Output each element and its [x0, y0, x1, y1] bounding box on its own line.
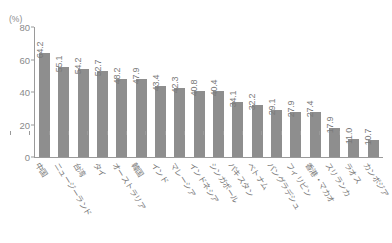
cropped-title-remnant: [8, 0, 258, 4]
x-axis-label: カンボジア: [362, 160, 392, 198]
bar-slot: 47.9: [132, 27, 151, 157]
bar-series: 64.255.154.252.748.247.943.442.340.840.4…: [35, 27, 383, 157]
x-tick-slot: [117, 131, 136, 135]
x-tick-mark: [165, 131, 166, 135]
bar-slot: 10.7: [364, 27, 383, 157]
x-tick-slot: [20, 131, 39, 135]
bar-slot: 64.2: [35, 27, 54, 157]
x-axis-label: 台湾: [72, 160, 89, 179]
x-label-slot: シンガポール: [209, 160, 228, 242]
bar-value-label: 27.9: [286, 100, 296, 117]
bar-value-label: 32.2: [247, 93, 257, 110]
x-tick-mark: [339, 131, 340, 135]
x-tick-slot: [330, 131, 349, 135]
x-label-slot: 韓国: [132, 160, 151, 242]
bar-value-label: 29.1: [267, 98, 277, 115]
y-tick-mark: [31, 27, 34, 28]
x-tick-mark: [319, 131, 320, 135]
x-tick-slot: [291, 131, 310, 135]
x-label-slot: フィリピン: [286, 160, 305, 242]
x-axis-label: 中国: [33, 160, 50, 179]
bar-value-label: 27.4: [305, 101, 315, 118]
x-tick-mark: [145, 131, 146, 135]
bar-slot: 52.7: [93, 27, 112, 157]
bar-slot: 40.4: [209, 27, 228, 157]
bar: [116, 79, 127, 157]
y-tick-mark: [31, 92, 34, 93]
bar-slot: 48.2: [112, 27, 131, 157]
x-label-slot: ラオス: [344, 160, 363, 242]
y-tick-mark: [31, 124, 34, 125]
x-label-slot: 香港・マカオ: [306, 160, 325, 242]
bar-slot: 55.1: [54, 27, 73, 157]
x-tick-mark: [300, 131, 301, 135]
x-tick-slot: [252, 131, 271, 135]
x-tick-slot: [98, 131, 117, 135]
x-tick-mark: [242, 131, 243, 135]
x-tick-slot: [136, 131, 155, 135]
x-tick-slot: [78, 131, 97, 135]
y-tick-label: 20: [19, 119, 30, 130]
x-label-slot: ニュージーランド: [54, 160, 73, 242]
x-label-slot: 中国: [35, 160, 54, 242]
bar-value-label: 34.1: [228, 90, 238, 107]
x-axis-label: タイ: [91, 160, 108, 179]
x-label-slot: インド: [151, 160, 170, 242]
x-label-slot: パキスタン: [228, 160, 247, 242]
x-tick-slot: [156, 131, 175, 135]
x-label-slot: バングラデシュ: [267, 160, 286, 242]
bar: [136, 79, 147, 157]
x-axis-label: インド: [149, 160, 171, 185]
x-tick-slot: [40, 131, 59, 135]
bar-slot: 43.4: [151, 27, 170, 157]
y-tick-label: 60: [19, 54, 30, 65]
x-tick-slot: [233, 131, 252, 135]
bar-slot: 17.9: [325, 27, 344, 157]
x-label-slot: マレーシア: [170, 160, 189, 242]
bar: [232, 102, 243, 157]
x-label-slot: スリランカ: [325, 160, 344, 242]
bar: [194, 91, 205, 157]
bar: [174, 88, 185, 157]
bar-value-label: 54.2: [73, 58, 83, 75]
x-tick-mark: [10, 131, 11, 135]
x-tick-slot: [214, 131, 233, 135]
x-tick-slot: [194, 131, 213, 135]
x-tick-mark: [49, 131, 50, 135]
bar-slot: 40.8: [190, 27, 209, 157]
bar-value-label: 52.7: [93, 60, 103, 77]
x-axis-category-labels: 中国ニュージーランド台湾タイオーストラリア韓国インドマレーシアインドネシアシンガ…: [35, 160, 383, 242]
bar: [213, 91, 224, 157]
bar-slot: 27.9: [286, 27, 305, 157]
x-tick-slot: [175, 131, 194, 135]
bar-value-label: 40.8: [189, 79, 199, 96]
x-tick-mark: [126, 131, 127, 135]
y-tick-label: 80: [19, 22, 30, 33]
bar-slot: 11.0: [344, 27, 363, 157]
x-label-slot: タイ: [93, 160, 112, 242]
x-tick-mark: [223, 131, 224, 135]
bar: [58, 67, 69, 157]
x-label-slot: カンボジア: [364, 160, 383, 242]
bar-value-label: 64.2: [35, 41, 45, 58]
bar: [78, 69, 89, 157]
x-axis-label: 韓国: [130, 160, 147, 179]
bar-slot: 32.2: [248, 27, 267, 157]
x-tick-mark: [68, 131, 69, 135]
bar-value-label: 10.7: [363, 128, 373, 145]
x-label-slot: オーストラリア: [112, 160, 131, 242]
plot-area: 020406080 64.255.154.252.748.247.943.442…: [34, 27, 383, 157]
bar-slot: 42.3: [170, 27, 189, 157]
bar-slot: 29.1: [267, 27, 286, 157]
x-tick-slot: [272, 131, 291, 135]
bar-value-label: 43.4: [151, 75, 161, 92]
y-tick-label: 40: [19, 87, 30, 98]
x-tick-mark: [184, 131, 185, 135]
x-axis-ticks: [1, 131, 349, 135]
x-tick-slot: [1, 131, 20, 135]
x-tick-mark: [107, 131, 108, 135]
bar-value-label: 40.4: [209, 80, 219, 97]
x-tick-mark: [261, 131, 262, 135]
x-tick-mark: [29, 131, 30, 135]
